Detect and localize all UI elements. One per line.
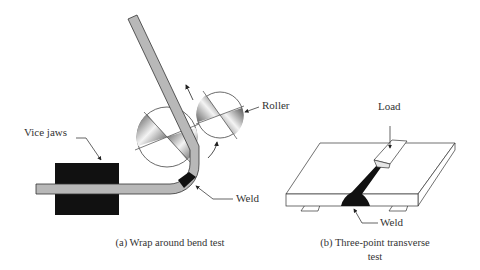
- roller-label: Roller: [262, 99, 290, 111]
- weld-label-a: Weld: [236, 192, 259, 204]
- caption-a: (a) Wrap around bend test: [90, 237, 250, 248]
- load-label: Load: [378, 100, 401, 112]
- bend-test-diagram: [0, 0, 480, 270]
- wrap-around-bend-figure: [36, 15, 259, 215]
- weld-label-b: Weld: [380, 216, 403, 228]
- caption-b-line2: test: [300, 251, 450, 262]
- caption-b-line1: (b) Three-point transverse: [300, 237, 450, 248]
- small-roller: [196, 91, 244, 139]
- three-point-transverse-figure: [286, 126, 455, 223]
- vice-jaws-label: Vice jaws: [24, 126, 67, 138]
